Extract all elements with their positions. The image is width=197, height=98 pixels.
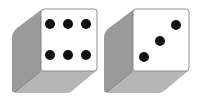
pip xyxy=(139,52,149,62)
pip xyxy=(155,36,165,46)
pip xyxy=(63,19,73,29)
die-three xyxy=(104,9,189,93)
die-six xyxy=(12,9,97,93)
pip xyxy=(81,19,91,29)
pip xyxy=(63,50,73,60)
die-front-face xyxy=(41,9,97,71)
pip xyxy=(171,20,181,30)
dice-illustration xyxy=(0,0,197,98)
pip xyxy=(81,50,91,60)
pip xyxy=(45,19,55,29)
pip xyxy=(45,50,55,60)
